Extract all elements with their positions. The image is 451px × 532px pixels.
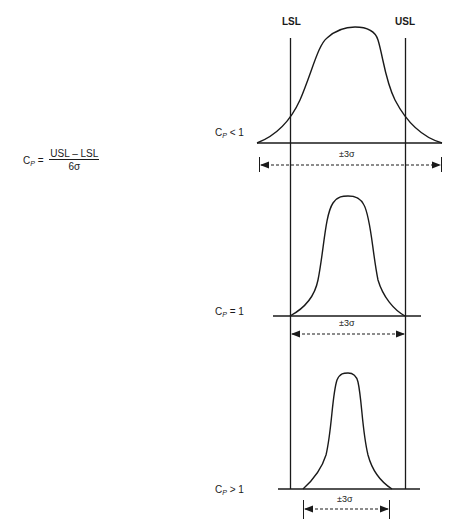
distribution-curve-medium (290, 196, 405, 316)
distribution-curve-narrow (303, 373, 392, 489)
capability-diagram (0, 0, 451, 532)
distribution-curve-wide (257, 27, 442, 143)
